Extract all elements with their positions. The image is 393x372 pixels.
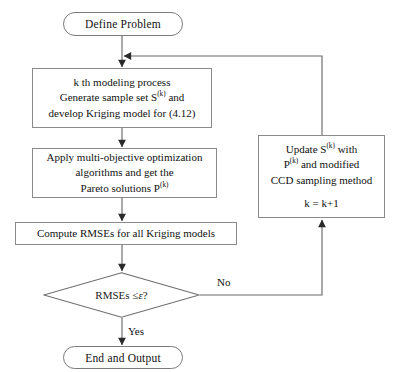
node-update-line-2: P(k) and modified xyxy=(284,157,360,173)
node-update-line-1-superscript: (k) xyxy=(326,142,334,150)
node-optimization-line-3-superscript: (k) xyxy=(160,181,168,189)
node-update-line-4: k = k+1 xyxy=(304,196,338,212)
node-define-problem-label: Define Problem xyxy=(85,18,161,30)
edge-label-no: No xyxy=(217,276,230,288)
node-optimization-line-2: algorithms and get the xyxy=(75,165,173,181)
flowchart-canvas: Define Problem k th modeling process Gen… xyxy=(0,0,393,372)
node-decision-rmse-label-b: ? xyxy=(143,289,148,301)
node-update-line-1-text-a: Update S xyxy=(286,143,327,155)
node-modeling-line-1: k th modeling process xyxy=(74,75,171,91)
node-modeling-line-3: develop Kriging model for (4.12) xyxy=(49,106,196,122)
node-decision-rmse-label-a: RMSEs ≤ xyxy=(95,289,138,301)
node-modeling-line-2: Generate sample set S(k) and xyxy=(60,90,185,106)
node-decision-rmse[interactable]: RMSEs ≤ ε ? xyxy=(43,272,200,318)
edge-label-yes: Yes xyxy=(128,325,144,337)
node-decision-rmse-label: RMSEs ≤ ε ? xyxy=(43,272,200,318)
node-define-problem[interactable]: Define Problem xyxy=(63,12,183,36)
node-optimization-line-1: Apply multi-objective optimization xyxy=(47,150,203,166)
node-update-line-2-text-b: and modified xyxy=(298,158,359,170)
node-modeling-line-2-superscript: (k) xyxy=(157,91,165,99)
node-update-line-3: CCD sampling method xyxy=(271,173,372,189)
node-end-and-output-label: End and Output xyxy=(85,352,161,364)
node-end-and-output[interactable]: End and Output xyxy=(63,346,183,369)
node-optimization[interactable]: Apply multi-objective optimization algor… xyxy=(32,148,217,198)
node-update-line-1-text-b: with xyxy=(335,143,357,155)
node-compute-rmse[interactable]: Compute RMSEs for all Kriging models xyxy=(15,222,237,245)
node-update-line-2-superscript: (k) xyxy=(290,158,298,166)
node-modeling-line-2-text-a: Generate sample set S xyxy=(60,91,157,103)
node-update-line-1: Update S(k) with xyxy=(286,142,357,158)
node-modeling-process[interactable]: k th modeling process Generate sample se… xyxy=(32,68,212,128)
node-optimization-line-3: Pareto solutions P(k) xyxy=(81,181,169,197)
node-optimization-line-3-text: Pareto solutions P xyxy=(81,182,160,194)
node-modeling-line-2-text-b: and xyxy=(166,91,185,103)
node-update-sample-set[interactable]: Update S(k) with P(k) and modified CCD s… xyxy=(258,135,385,218)
node-compute-rmse-label: Compute RMSEs for all Kriging models xyxy=(37,226,215,242)
